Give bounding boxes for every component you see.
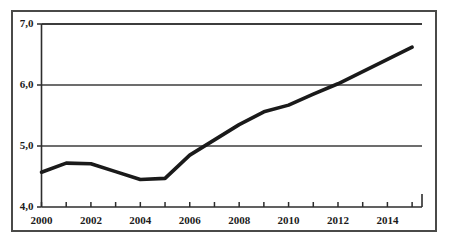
y-axis-tick-label: 7,0 bbox=[8, 18, 34, 29]
line-chart-plot bbox=[0, 0, 450, 249]
x-axis-tick-label: 2002 bbox=[74, 215, 108, 226]
x-axis-tick-label: 2012 bbox=[321, 215, 355, 226]
y-axis-tick-label: 4,0 bbox=[8, 201, 34, 212]
x-axis-tick-label: 2000 bbox=[25, 215, 59, 226]
x-axis-tick-label: 2006 bbox=[173, 215, 207, 226]
x-axis-tick-label: 2004 bbox=[123, 215, 157, 226]
data-line bbox=[42, 47, 413, 179]
chart-figure: 7,06,05,04,0 200020022004200620082010201… bbox=[0, 0, 450, 249]
y-axis-tick-label: 5,0 bbox=[8, 140, 34, 151]
axes-group bbox=[42, 24, 423, 207]
y-axis-tick-label: 6,0 bbox=[8, 79, 34, 90]
x-axis-tick-label: 2014 bbox=[370, 215, 404, 226]
data-series-group bbox=[42, 47, 413, 179]
x-axis-tick-label: 2010 bbox=[272, 215, 306, 226]
x-axis-tick-label: 2008 bbox=[222, 215, 256, 226]
